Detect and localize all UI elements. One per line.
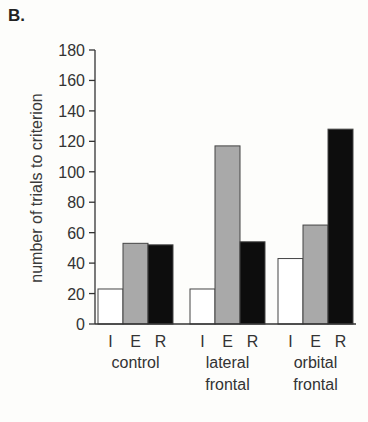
bar-i [190, 289, 215, 324]
bar-r [148, 245, 173, 324]
x-subcategory-label: I [288, 333, 292, 350]
x-subcategory-label: E [222, 333, 233, 350]
x-subcategory-label: R [335, 333, 347, 350]
x-subcategory-label: I [200, 333, 204, 350]
x-subcategory-label: I [108, 333, 112, 350]
x-group-label: lateral [206, 354, 250, 371]
y-tick-label: 100 [58, 164, 85, 181]
x-subcategory-label: E [130, 333, 141, 350]
y-tick-label: 0 [76, 316, 85, 333]
y-tick-label: 180 [58, 42, 85, 59]
x-subcategory-label: E [310, 333, 321, 350]
y-tick-label: 60 [67, 225, 85, 242]
bar-chart: 020406080100120140160180IERcontrolIERlat… [0, 0, 368, 422]
y-tick-label: 160 [58, 72, 85, 89]
bar-i [278, 259, 303, 324]
y-tick-label: 20 [67, 286, 85, 303]
x-group-label: control [111, 354, 159, 371]
bar-e [123, 243, 148, 324]
x-group-label: orbital [294, 354, 338, 371]
x-subcategory-label: R [155, 333, 167, 350]
bar-i [98, 289, 123, 324]
x-group-label: frontal [205, 376, 249, 393]
bar-e [215, 146, 240, 324]
x-subcategory-label: R [247, 333, 259, 350]
x-group-label: frontal [293, 376, 337, 393]
y-tick-label: 40 [67, 255, 85, 272]
bar-r [328, 129, 353, 324]
bar-r [240, 242, 265, 324]
bar-e [303, 225, 328, 324]
y-tick-label: 80 [67, 194, 85, 211]
y-tick-label: 120 [58, 133, 85, 150]
y-tick-label: 140 [58, 103, 85, 120]
